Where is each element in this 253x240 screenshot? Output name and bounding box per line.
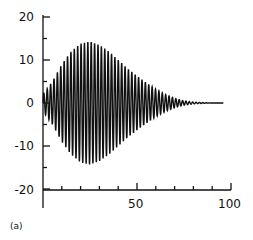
y-tick-label-neg10: -10 [0, 140, 34, 152]
panel-label: (a) [10, 221, 23, 231]
y-tick-label-10: 10 [0, 54, 34, 66]
chart-plot [0, 0, 253, 240]
x-tick-label-100: 100 [218, 198, 241, 210]
data-series-oscillation [43, 42, 223, 164]
y-tick-label-0: 0 [0, 97, 34, 109]
x-tick-label-50: 50 [128, 198, 143, 210]
y-tick-label-neg20: -20 [0, 184, 34, 196]
y-tick-label-20: 20 [0, 11, 34, 23]
